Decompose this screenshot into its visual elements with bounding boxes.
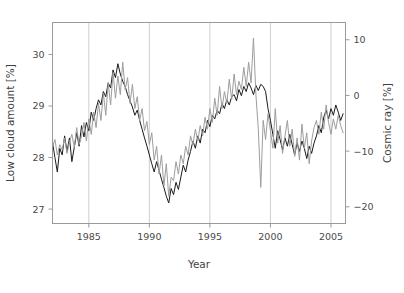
tick-label-x-1990: 1990: [137, 231, 161, 242]
x-axis-title: Year: [187, 258, 211, 270]
y-axis-title: Low cloud amount [%]: [4, 64, 16, 182]
tick-label-y-30: 30: [32, 49, 44, 60]
tick-label-x-2005: 2005: [319, 231, 343, 242]
tick-label-x-1995: 1995: [198, 231, 222, 242]
tick-label-y-28: 28: [32, 152, 44, 163]
tick-label-y-29: 29: [32, 100, 44, 111]
tick-label-y2--10: −10: [354, 146, 374, 157]
tick-label-y2-0: 0: [354, 90, 360, 101]
cloud-cosmic-ray-chart: 27282930 −20−10010 19851990199520002005 …: [0, 0, 404, 293]
tick-label-y-27: 27: [32, 204, 44, 215]
tick-label-x-1985: 1985: [77, 231, 101, 242]
y2-axis-title: Cosmic ray [%]: [381, 83, 393, 163]
tick-label-x-2000: 2000: [258, 231, 282, 242]
tick-label-y2--20: −20: [354, 201, 374, 212]
tick-label-y2-10: 10: [354, 34, 366, 45]
